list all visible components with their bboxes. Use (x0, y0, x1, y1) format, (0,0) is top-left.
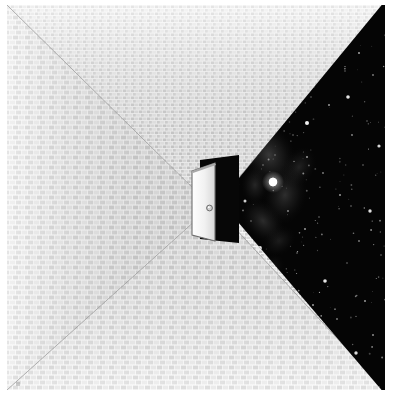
door-knob[interactable] (207, 205, 213, 211)
scene-canvas (7, 5, 385, 390)
corner-artefact (15, 381, 21, 387)
door-panel[interactable] (192, 163, 216, 241)
door-layer (7, 5, 385, 390)
artboard (0, 0, 395, 396)
